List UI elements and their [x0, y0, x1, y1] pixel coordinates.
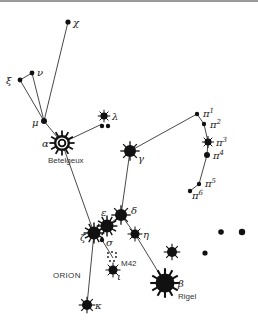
constellation-line: [44, 22, 68, 121]
nebula-dot: [113, 260, 115, 262]
greek-letter-mu: μ: [32, 117, 39, 128]
star-pi5: [197, 182, 201, 186]
greek-letter-pi2: π2: [209, 118, 222, 130]
nebula-dot: [111, 251, 113, 253]
star-dot-icon: [30, 71, 35, 76]
greek-letter-kappa: κ: [94, 300, 102, 311]
star-dot-icon: [100, 112, 107, 119]
star-xi: [18, 78, 23, 83]
constellation-line: [130, 114, 197, 151]
constellation-line: [121, 151, 130, 215]
star-dot-icon: [88, 227, 101, 240]
greek-letter-pi1: π1: [202, 107, 214, 119]
constellation-svg: χξνμλγπ1π2π3π4π5π6δεζσηικβα Betelgeux Ri…: [0, 0, 258, 333]
star-pi1: [195, 112, 199, 116]
greek-letter-chi: χ: [72, 17, 80, 28]
greek-letter-nu: ν: [37, 67, 43, 78]
star-lambda-c: [106, 124, 110, 128]
star-star-e2: [202, 250, 207, 255]
star-gamma: [120, 141, 139, 160]
nebula-dot: [107, 256, 109, 258]
star-dot-icon: [100, 238, 104, 242]
nebula-dot: [115, 252, 117, 254]
greek-letter-pi6: π6: [191, 189, 204, 201]
betelgeuse-label: Betelgeux: [48, 156, 84, 165]
star-pi3: [202, 136, 214, 148]
m42-label: M42: [121, 259, 137, 268]
greek-letter-pi5: π5: [204, 177, 217, 189]
star-pi4: [204, 152, 210, 158]
star-dot-icon: [202, 250, 207, 255]
star-dot-icon: [124, 145, 136, 157]
star-star-e3: [218, 229, 224, 235]
constellation-line: [20, 80, 44, 121]
greek-letter-pi3: π3: [215, 136, 228, 148]
star-dot-icon: [131, 230, 140, 239]
stars: [18, 19, 246, 313]
star-dot-icon: [115, 209, 127, 221]
star-dot-icon: [239, 229, 245, 235]
greek-letter-epsilon: ε: [101, 207, 106, 218]
greek-letter-beta: β: [177, 278, 184, 289]
star-beta: [150, 268, 180, 298]
greek-letter-alpha: α: [42, 138, 49, 149]
star-mu: [41, 118, 47, 124]
orion-star-chart: χξνμλγπ1π2π3π4π5π6δεζσηικβα Betelgeux Ri…: [0, 0, 258, 333]
greek-letter-zeta: ζ: [80, 232, 86, 243]
star-kappa: [79, 297, 96, 314]
betelgeuse-star: [49, 130, 74, 155]
star-dot-icon: [100, 124, 104, 128]
star-dot-icon: [197, 182, 201, 186]
greek-letter-sigma: σ: [106, 237, 114, 248]
star-dot-icon: [218, 229, 224, 235]
star-dot-icon: [204, 152, 210, 158]
star-dot-icon: [41, 118, 47, 124]
star-pi2: [202, 122, 206, 126]
star-dot-icon: [195, 112, 199, 116]
star-dot-icon: [65, 19, 70, 24]
star-star-e4: [239, 229, 245, 235]
greek-letter-delta: δ: [131, 205, 137, 216]
star-star-e1: [164, 244, 181, 261]
star-lambda: [98, 110, 110, 122]
star-sigma: [100, 238, 104, 242]
star-eta: [127, 226, 142, 241]
greek-letter-xi: ξ: [6, 75, 12, 86]
star-dot-icon: [106, 124, 110, 128]
greek-letter-iota: ι: [117, 271, 121, 282]
star-dot-icon: [202, 122, 206, 126]
constellation-name-label: ORION: [53, 271, 81, 280]
star-dot-icon: [156, 274, 175, 293]
greek-letter-eta: η: [143, 229, 149, 240]
star-dot-icon: [205, 139, 212, 146]
star-dot-icon: [101, 220, 114, 233]
star-chi: [65, 19, 70, 24]
nebula-dot: [107, 252, 109, 254]
star-nu: [30, 71, 35, 76]
greek-letter-lambda: λ: [111, 111, 118, 122]
star-dot-icon: [18, 78, 23, 83]
nebula-dot: [109, 260, 111, 262]
rigel-label: Rigel: [178, 292, 196, 301]
star-dot-icon: [167, 247, 177, 257]
star-lambda-b: [100, 124, 104, 128]
constellation-line: [32, 73, 44, 121]
star-dot-icon: [82, 300, 92, 310]
greek-letter-gamma: γ: [138, 153, 144, 164]
greek-letter-pi4: π4: [212, 149, 224, 161]
nebula-dot: [115, 256, 117, 258]
constellation-line: [87, 233, 94, 305]
